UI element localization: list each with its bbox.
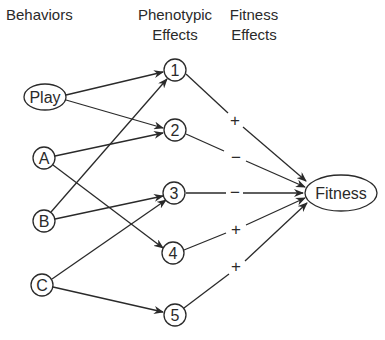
node-a: A <box>33 147 55 169</box>
sign-3: − <box>230 183 240 202</box>
node-3: 3 <box>163 182 185 204</box>
edge-a-4 <box>53 165 163 248</box>
fitness-edges <box>184 74 307 308</box>
node-b: B <box>33 210 55 232</box>
phenotypic-nodes: 1 2 3 4 5 <box>162 59 186 326</box>
sign-2: − <box>231 148 241 167</box>
node-b-label: B <box>39 213 50 230</box>
node-2: 2 <box>164 119 186 141</box>
node-fitness: Fitness <box>305 175 377 211</box>
edge-c-3 <box>52 200 166 279</box>
node-c: C <box>31 274 53 296</box>
node-play-label: Play <box>29 89 60 106</box>
behavior-edges <box>51 72 167 312</box>
edge-a-2 <box>55 133 163 156</box>
edge-c-5 <box>53 287 163 312</box>
node-4: 4 <box>162 242 184 264</box>
sign-4: + <box>231 220 241 239</box>
edge-1-fitness <box>186 74 228 113</box>
edge-5-fitness <box>184 274 229 308</box>
edge-4-fitness <box>184 233 226 250</box>
node-1-label: 1 <box>171 62 180 79</box>
node-a-label: A <box>39 150 50 167</box>
node-play: Play <box>24 84 66 110</box>
sign-5: + <box>231 257 241 276</box>
node-1: 1 <box>164 59 186 81</box>
node-c-label: C <box>36 277 48 294</box>
edge-b-1 <box>51 79 167 212</box>
fitness-signs: + − − + + <box>230 111 241 276</box>
node-5: 5 <box>164 304 186 326</box>
behavior-nodes: Play A B C <box>24 84 66 296</box>
edge-play-1 <box>66 72 163 95</box>
node-3-label: 3 <box>170 185 179 202</box>
node-fitness-label: Fitness <box>315 185 367 202</box>
edge-play-2 <box>66 100 163 128</box>
edge-2-fitness <box>186 134 224 151</box>
node-5-label: 5 <box>171 307 180 324</box>
diagram-canvas: + − − + + Play A B C 1 2 <box>0 0 385 340</box>
node-4-label: 4 <box>169 245 178 262</box>
sign-1: + <box>230 111 240 130</box>
node-2-label: 2 <box>171 122 180 139</box>
edge-b-3 <box>55 196 163 219</box>
